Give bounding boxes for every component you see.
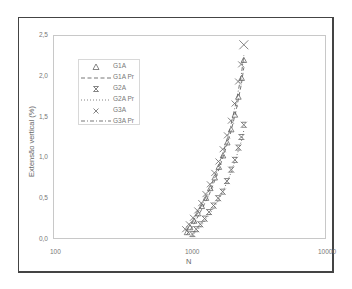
legend-item-g1a: G1A — [79, 61, 141, 72]
data-point — [202, 216, 208, 222]
dashed-line-icon — [81, 72, 111, 83]
asterisk-icon — [81, 83, 111, 94]
data-point — [239, 40, 248, 49]
plot-series — [0, 0, 352, 289]
data-point — [228, 118, 234, 124]
data-point — [211, 203, 217, 209]
series-line — [192, 131, 243, 236]
legend-item-g2a-pr: G2A Pr — [79, 94, 141, 105]
data-point — [235, 79, 241, 85]
data-point — [215, 158, 221, 164]
data-point — [238, 134, 244, 140]
triangle-icon — [81, 61, 111, 72]
data-point — [235, 145, 241, 151]
data-point — [232, 101, 238, 107]
data-point — [232, 157, 238, 163]
legend-item-g3a: G3A — [79, 105, 141, 116]
data-point — [220, 146, 226, 152]
data-point — [236, 94, 242, 99]
legend: G1A G1A Pr G2A G2A Pr G3A G3A Pr — [78, 59, 140, 125]
data-point — [224, 178, 230, 184]
data-point — [220, 189, 226, 195]
legend-item-g1a-pr: G1A Pr — [79, 72, 141, 83]
data-point — [228, 167, 234, 173]
data-point — [224, 132, 230, 138]
legend-item-g3a-pr: G3A Pr — [79, 116, 141, 127]
data-point — [241, 122, 247, 128]
data-point — [215, 195, 221, 201]
series-line — [187, 68, 244, 235]
x-marker-icon — [81, 105, 111, 116]
legend-item-g2a: G2A — [79, 83, 141, 94]
dash-dot-line-icon — [81, 116, 111, 127]
dotted-line-icon — [81, 94, 111, 105]
